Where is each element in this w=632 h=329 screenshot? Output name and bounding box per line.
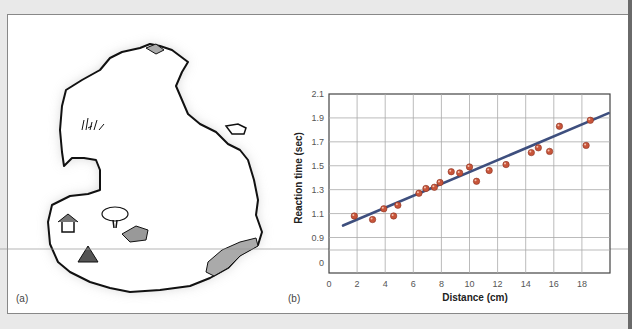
data-point xyxy=(473,178,479,184)
y-tick-labels: 00.91.11.31.51.71.92.1 xyxy=(311,89,324,268)
x-tick-label: 8 xyxy=(439,279,444,289)
x-tick-label: 16 xyxy=(549,279,559,289)
data-point xyxy=(390,213,396,219)
x-tick-label: 6 xyxy=(411,279,416,289)
reaction-time-chart: 00.91.11.31.51.71.92.1 024681012141618 D… xyxy=(0,0,632,329)
x-tick-label: 4 xyxy=(383,279,388,289)
data-point xyxy=(556,123,562,129)
x-tick-label: 0 xyxy=(326,279,331,289)
x-tick-label: 10 xyxy=(464,279,474,289)
y-tick-label: 1.9 xyxy=(311,113,324,123)
data-point xyxy=(503,161,509,167)
y-tick-label: 1.7 xyxy=(311,137,324,147)
y-tick-label: 2.1 xyxy=(311,89,324,99)
x-tick-label: 14 xyxy=(521,279,531,289)
data-point xyxy=(431,184,437,190)
y-axis-label: Reaction time (sec) xyxy=(293,132,304,224)
data-point xyxy=(535,145,541,151)
data-point xyxy=(448,169,454,175)
y-tick-label: 0.9 xyxy=(311,233,324,243)
x-tick-label: 2 xyxy=(355,279,360,289)
data-point xyxy=(583,142,589,148)
data-point xyxy=(456,170,462,176)
y-tick-label: 1.3 xyxy=(311,185,324,195)
x-axis-label: Distance (cm) xyxy=(442,292,508,303)
data-point xyxy=(528,149,534,155)
data-point xyxy=(381,206,387,212)
data-point xyxy=(546,148,552,154)
data-point xyxy=(423,185,429,191)
y-tick-label: 0 xyxy=(319,258,324,268)
page-edge xyxy=(628,0,632,329)
grid xyxy=(329,94,610,273)
data-point xyxy=(395,202,401,208)
data-point xyxy=(351,213,357,219)
data-point xyxy=(466,164,472,170)
data-point xyxy=(486,167,492,173)
data-point xyxy=(587,117,593,123)
x-tick-label: 12 xyxy=(493,279,503,289)
x-tick-label: 18 xyxy=(577,279,587,289)
y-tick-label: 1.5 xyxy=(311,161,324,171)
data-point xyxy=(437,179,443,185)
y-tick-label: 1.1 xyxy=(311,209,324,219)
data-point xyxy=(369,216,375,222)
x-tick-labels: 024681012141618 xyxy=(326,279,586,289)
data-point xyxy=(416,190,422,196)
